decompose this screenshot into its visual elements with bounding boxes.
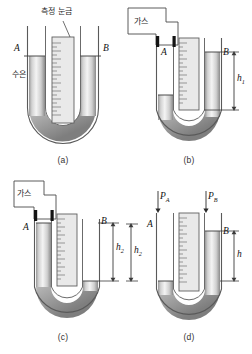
mercury-note-a: 수은 bbox=[12, 71, 26, 79]
label-h-right: h bbox=[237, 250, 242, 260]
label-h2-left: h2 bbox=[134, 246, 142, 257]
caption-a: (a) bbox=[0, 155, 126, 165]
panel-d-drawing bbox=[126, 177, 252, 354]
label-h1: h1 bbox=[237, 74, 245, 85]
mercury-right-column bbox=[80, 56, 96, 116]
label-pressure-b: PB bbox=[208, 192, 218, 203]
label-a-right: B bbox=[103, 44, 109, 54]
label-c-left: A bbox=[23, 223, 29, 233]
panel-c: 가스 A B h2 (c) bbox=[0, 177, 126, 354]
gas-vessel-b bbox=[128, 8, 178, 45]
stopper-right bbox=[51, 210, 54, 221]
panel-a-drawing bbox=[0, 0, 126, 177]
panel-b: 가스 A B h1 (b) bbox=[126, 0, 252, 177]
measuring-scale bbox=[52, 37, 74, 123]
label-d-left: A bbox=[147, 220, 153, 230]
caption-d: (d) bbox=[126, 332, 252, 342]
stopper-left bbox=[156, 36, 159, 47]
label-d-right: B bbox=[223, 227, 229, 237]
panel-d: PA PB A B h2 h (d) bbox=[126, 177, 252, 354]
label-b-left: A bbox=[161, 48, 167, 58]
mercury-right-column bbox=[205, 52, 220, 117]
gas-note-c: 가스 bbox=[17, 190, 31, 198]
measuring-scale bbox=[179, 213, 199, 291]
scale-note-a: 측정 눈금 bbox=[41, 8, 72, 16]
mercury-left-column bbox=[158, 281, 173, 295]
label-c-right: B bbox=[101, 217, 107, 227]
figure-manometers: 측정 눈금 수은 A B (a) bbox=[0, 0, 252, 354]
panel-b-drawing bbox=[126, 0, 252, 177]
label-pressure-a: PA bbox=[160, 192, 170, 203]
stopper-right bbox=[173, 36, 176, 47]
caption-c: (c) bbox=[0, 332, 126, 342]
caption-b: (b) bbox=[126, 155, 252, 165]
label-b-right: B bbox=[223, 48, 229, 58]
stopper-left bbox=[34, 210, 37, 221]
gas-note-b: 가스 bbox=[134, 18, 148, 26]
panel-a: 측정 눈금 수은 A B (a) bbox=[0, 0, 126, 177]
mercury-left-column bbox=[36, 223, 51, 287]
scale-leader-line bbox=[63, 21, 70, 37]
mercury-left-column bbox=[158, 95, 173, 120]
panel-c-drawing bbox=[0, 177, 126, 354]
mercury-right-column bbox=[83, 281, 98, 291]
mercury-right-column bbox=[205, 231, 220, 295]
label-h2: h2 bbox=[116, 243, 124, 254]
label-a-left: A bbox=[14, 44, 20, 54]
mercury-left-column bbox=[29, 56, 45, 116]
